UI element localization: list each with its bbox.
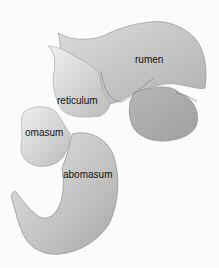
reticulum-label: reticulum bbox=[57, 96, 98, 106]
abomasum-label: abomasum bbox=[63, 170, 112, 180]
rumen-label: rumen bbox=[135, 55, 163, 65]
rumen-ventral-sac-shape bbox=[129, 87, 197, 141]
omasum-label: omasum bbox=[25, 128, 63, 138]
